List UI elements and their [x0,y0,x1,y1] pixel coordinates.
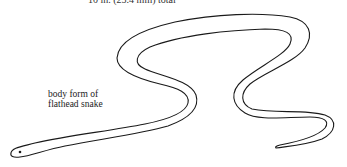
snake-outer-outline [11,14,334,157]
snake-eye-icon [19,151,22,154]
snake-illustration [0,0,347,167]
